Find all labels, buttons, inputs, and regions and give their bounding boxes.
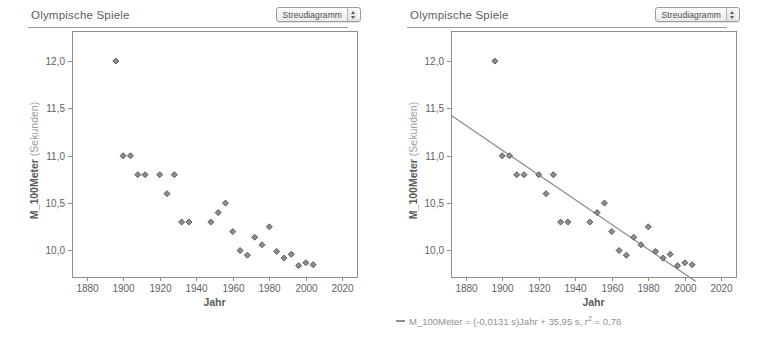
scatter-plot: 10,010,511,011,512,018801900192019401960…: [0, 22, 379, 322]
data-point[interactable]: [215, 210, 221, 216]
x-tick-label: 2020: [331, 283, 354, 294]
data-point[interactable]: [222, 200, 228, 206]
x-tick-label: 1960: [601, 283, 624, 294]
x-tick-label: 1900: [112, 283, 135, 294]
data-point[interactable]: [543, 191, 549, 197]
data-point[interactable]: [244, 252, 250, 258]
y-tick-label: 12,0: [425, 56, 445, 67]
stepper-up-down-icon[interactable]: [726, 8, 736, 21]
data-point[interactable]: [142, 172, 148, 178]
data-point[interactable]: [164, 191, 170, 197]
x-tick-label: 1980: [258, 283, 281, 294]
x-tick-label: 1880: [76, 283, 99, 294]
svg-text:M_100Meter (Sekunden): M_100Meter (Sekunden): [407, 102, 419, 219]
legend-line-swatch: [396, 320, 405, 322]
data-point[interactable]: [281, 255, 287, 261]
data-point[interactable]: [259, 242, 265, 248]
data-point[interactable]: [296, 263, 302, 269]
y-tick-label: 12,0: [46, 56, 66, 67]
data-point[interactable]: [550, 172, 556, 178]
x-axis-title: Jahr: [582, 296, 604, 308]
data-point[interactable]: [135, 172, 141, 178]
y-axis-title: M_100Meter (Sekunden): [28, 102, 40, 219]
y-tick-label: 11,0: [425, 151, 444, 162]
data-point[interactable]: [186, 219, 192, 225]
scatterplot-comparison-view: Olympische SpieleStreudiagramm10,010,511…: [0, 0, 758, 344]
scatter-plot: 10,010,511,011,512,018801900192019401960…: [379, 22, 758, 322]
plot-type-select[interactable]: Streudiagramm: [276, 7, 361, 22]
data-point[interactable]: [113, 58, 119, 64]
plot-type-select-value: Streudiagramm: [662, 10, 726, 20]
data-point[interactable]: [252, 234, 258, 240]
data-point[interactable]: [492, 58, 498, 64]
data-point[interactable]: [274, 248, 280, 254]
x-tick-label: 1960: [222, 283, 245, 294]
data-point[interactable]: [208, 219, 214, 225]
data-point[interactable]: [616, 247, 622, 253]
data-point[interactable]: [594, 210, 600, 216]
data-point[interactable]: [609, 229, 615, 235]
data-point[interactable]: [587, 219, 593, 225]
data-point[interactable]: [310, 262, 316, 268]
data-point[interactable]: [667, 251, 673, 257]
plot-axes: 10,010,511,011,512,018801900192019401960…: [46, 32, 358, 295]
x-tick-label: 1980: [637, 283, 660, 294]
data-point[interactable]: [288, 251, 294, 257]
plot-type-select[interactable]: Streudiagramm: [655, 7, 740, 22]
data-point[interactable]: [171, 172, 177, 178]
y-tick-label: 10,0: [425, 245, 445, 256]
x-tick-label: 1920: [528, 283, 551, 294]
data-point[interactable]: [631, 234, 637, 240]
y-tick-label: 10,5: [46, 198, 66, 209]
data-point[interactable]: [689, 262, 695, 268]
data-point[interactable]: [623, 252, 629, 258]
x-tick-label: 1940: [185, 283, 208, 294]
plot-axes: 10,010,511,011,512,018801900192019401960…: [425, 32, 737, 295]
data-point[interactable]: [230, 229, 236, 235]
data-point[interactable]: [499, 153, 505, 159]
y-tick-label: 10,0: [46, 245, 66, 256]
data-point[interactable]: [565, 219, 571, 225]
plot-title: Olympische Spiele: [410, 9, 509, 21]
x-tick-label: 2000: [295, 283, 318, 294]
x-tick-label: 1940: [564, 283, 587, 294]
data-point[interactable]: [179, 219, 185, 225]
plot-panel-right: Olympische SpieleStreudiagramm10,010,511…: [379, 0, 758, 344]
plot-title: Olympische Spiele: [31, 9, 130, 21]
data-point[interactable]: [127, 153, 133, 159]
data-points: [113, 58, 316, 269]
data-point[interactable]: [682, 260, 688, 266]
plot-type-select-value: Streudiagramm: [283, 10, 347, 20]
x-tick-label: 1920: [149, 283, 172, 294]
x-axis-title: Jahr: [203, 296, 225, 308]
y-tick-label: 11,5: [46, 103, 65, 114]
data-point[interactable]: [303, 260, 309, 266]
svg-text:M_100Meter (Sekunden): M_100Meter (Sekunden): [28, 102, 40, 219]
regression-equation-text: M_100Meter = (-0,0131 s)Jahr + 35,95 s, …: [409, 315, 621, 327]
data-point[interactable]: [601, 200, 607, 206]
y-tick-label: 10,5: [425, 198, 445, 209]
data-point[interactable]: [645, 224, 651, 230]
regression-legend: M_100Meter = (-0,0131 s)Jahr + 35,95 s, …: [396, 313, 758, 329]
data-point[interactable]: [514, 172, 520, 178]
data-point[interactable]: [558, 219, 564, 225]
x-tick-label: 2000: [674, 283, 697, 294]
r-squared-exponent: 2: [588, 315, 592, 322]
regression-line: [451, 115, 696, 281]
x-tick-label: 1900: [491, 283, 514, 294]
data-point[interactable]: [237, 247, 243, 253]
x-tick-label: 2020: [710, 283, 733, 294]
y-axis-title: M_100Meter (Sekunden): [407, 102, 419, 219]
data-point[interactable]: [120, 153, 126, 159]
x-tick-label: 1880: [455, 283, 478, 294]
data-point[interactable]: [157, 172, 163, 178]
y-tick-label: 11,5: [425, 103, 444, 114]
plot-panel-left: Olympische SpieleStreudiagramm10,010,511…: [0, 0, 379, 344]
y-tick-label: 11,0: [46, 151, 65, 162]
stepper-up-down-icon[interactable]: [347, 8, 357, 21]
data-point[interactable]: [521, 172, 527, 178]
data-point[interactable]: [266, 224, 272, 230]
